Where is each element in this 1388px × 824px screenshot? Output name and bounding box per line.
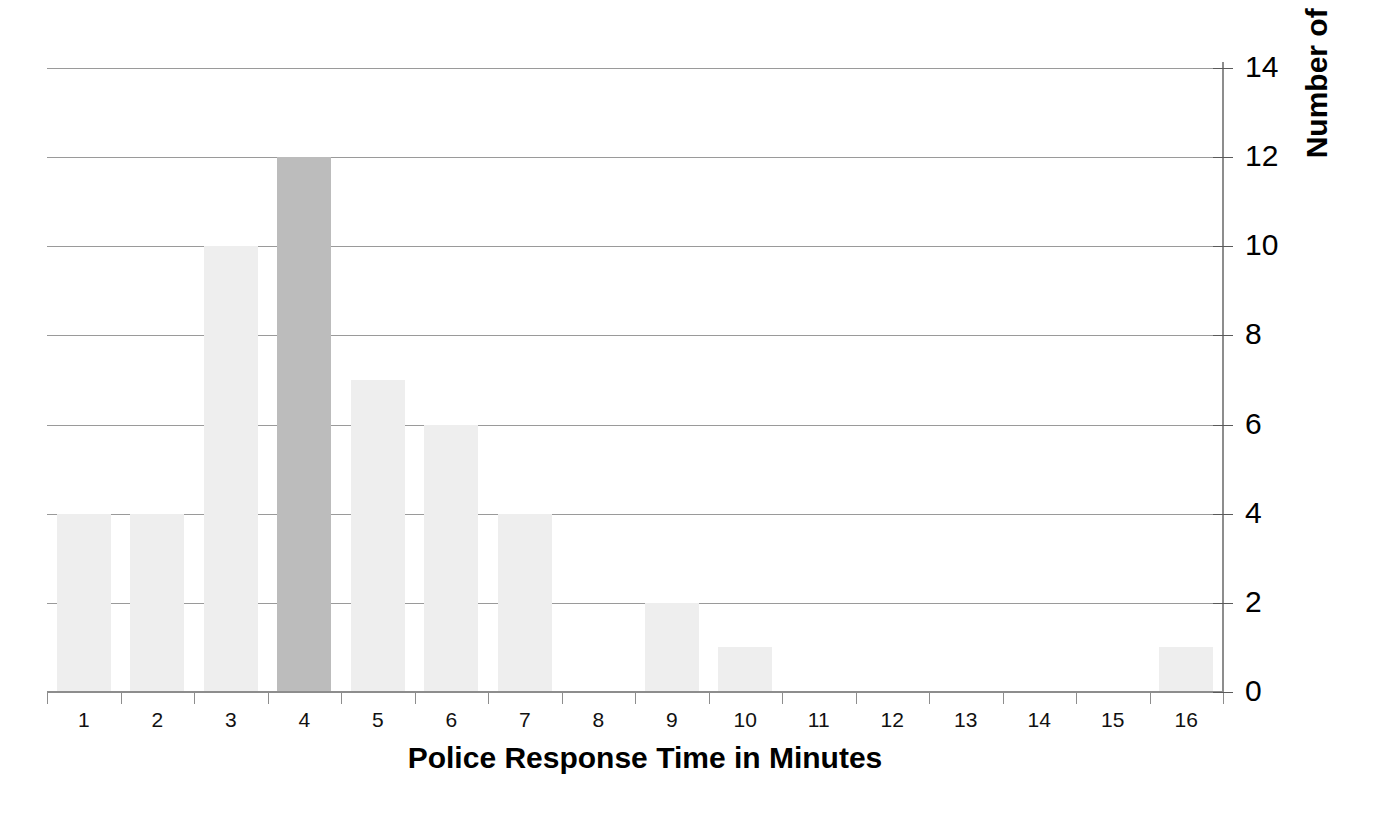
bar — [645, 603, 699, 692]
bars-layer — [47, 68, 1223, 692]
x-axis-tick-label: 12 — [862, 707, 922, 733]
y-axis-tick-label: 4 — [1245, 498, 1305, 528]
y-axis-tick — [1213, 246, 1233, 247]
x-axis-tick-label: 14 — [1009, 707, 1069, 733]
y-axis-tick-label: 14 — [1245, 52, 1305, 82]
x-axis-tick — [47, 693, 48, 704]
x-axis-tick-label: 15 — [1083, 707, 1143, 733]
y-axis-tick-label: 6 — [1245, 409, 1305, 439]
x-axis-tick — [635, 693, 636, 704]
y-axis-tick-label: 12 — [1245, 141, 1305, 171]
bar — [1159, 647, 1213, 692]
x-axis-tick — [1076, 693, 1077, 704]
x-axis-tick — [415, 693, 416, 704]
x-axis-tick — [1223, 693, 1224, 704]
x-axis-tick-label: 10 — [715, 707, 775, 733]
x-axis-tick — [782, 693, 783, 704]
plot-area — [47, 68, 1223, 692]
x-axis-tick-label: 9 — [642, 707, 702, 733]
x-axis-tick — [341, 693, 342, 704]
bar — [351, 380, 405, 692]
bar — [424, 425, 478, 692]
x-axis-tick — [1003, 693, 1004, 704]
bar — [277, 157, 331, 692]
x-axis-tick — [709, 693, 710, 704]
bar — [130, 514, 184, 692]
x-axis-tick — [856, 693, 857, 704]
x-axis-tick-label: 3 — [201, 707, 261, 733]
y-axis-tick-label: 10 — [1245, 230, 1305, 260]
x-axis-tick-label: 1 — [54, 707, 114, 733]
y-axis-tick-label: 2 — [1245, 587, 1305, 617]
x-axis-tick — [121, 693, 122, 704]
bar — [204, 246, 258, 692]
y-axis-tick — [1213, 68, 1233, 69]
x-axis-tick-label: 11 — [789, 707, 849, 733]
x-axis-tick — [488, 693, 489, 704]
bar — [718, 647, 772, 692]
x-axis-tick-label: 13 — [936, 707, 996, 733]
y-axis-title: Number of Events — [1300, 0, 1360, 200]
bar-chart: 12345678910111213141516 02468101214 Poli… — [0, 0, 1388, 824]
x-axis-tick-label: 7 — [495, 707, 555, 733]
x-axis-tick — [194, 693, 195, 704]
x-axis-tick-label: 5 — [348, 707, 408, 733]
x-axis-tick-label: 4 — [274, 707, 334, 733]
bar — [57, 514, 111, 692]
x-axis-tick-label: 6 — [421, 707, 481, 733]
x-axis-tick-label: 8 — [568, 707, 628, 733]
x-axis-title: Police Response Time in Minutes — [0, 741, 1290, 775]
x-axis-tick — [1150, 693, 1151, 704]
bar — [498, 514, 552, 692]
x-axis-tick — [268, 693, 269, 704]
x-axis-tick-label: 16 — [1156, 707, 1216, 733]
y-axis-tick — [1213, 335, 1233, 336]
y-axis-tick-label: 0 — [1245, 676, 1305, 706]
y-axis-tick — [1213, 692, 1233, 693]
y-axis-tick-label: 8 — [1245, 319, 1305, 349]
x-axis-tick — [929, 693, 930, 704]
y-axis-tick — [1213, 603, 1233, 604]
y-axis-tick — [1213, 157, 1233, 158]
x-axis-tick-label: 2 — [127, 707, 187, 733]
y-axis-tick — [1213, 425, 1233, 426]
y-axis-tick — [1213, 514, 1233, 515]
x-axis-tick — [562, 693, 563, 704]
